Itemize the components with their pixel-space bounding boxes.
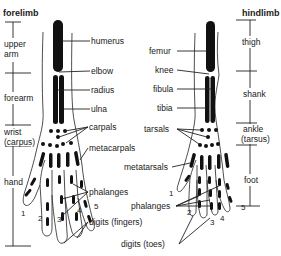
label-metacarpals: metacarpals — [89, 143, 135, 153]
toe-number-5: 5 — [241, 203, 246, 212]
finger-number-4: 4 — [77, 206, 82, 215]
tibia-bone — [205, 76, 210, 123]
label-elbow: elbow — [91, 66, 114, 76]
label-femur: femur — [149, 46, 171, 56]
hindlimb-group: hindlimb thigh shank ankle (tarsus) foot — [121, 8, 280, 249]
label-toe-phalanges: phalanges — [131, 201, 170, 211]
finger-number-2: 2 — [38, 214, 43, 223]
label-humerus: humerus — [91, 36, 124, 46]
label-digits-fingers: digits (fingers) — [89, 217, 143, 227]
region-ankle: ankle — [243, 124, 264, 134]
finger-number-1: 1 — [21, 209, 26, 218]
radius-bone — [53, 75, 58, 124]
label-digits-toes: digits (toes) — [121, 239, 165, 249]
toe-number-4: 4 — [220, 214, 225, 223]
region-upper-arm-2: arm — [4, 49, 19, 59]
toe-number-2: 2 — [187, 208, 192, 217]
humerus-bone — [53, 20, 63, 72]
tarsal-bones — [198, 128, 220, 148]
ulna-bone — [59, 75, 64, 124]
carpal-bones — [41, 129, 73, 148]
region-hand: hand — [4, 177, 23, 187]
label-tibia: tibia — [157, 103, 173, 113]
toe-number-3: 3 — [210, 218, 215, 227]
metacarpal-bones — [38, 151, 80, 168]
hindlimb-skin-outline — [177, 32, 230, 218]
region-wrist: wrist — [3, 127, 22, 137]
label-knee: knee — [155, 65, 174, 75]
label-phalanges: phalanges — [89, 187, 128, 197]
finger-number-5: 5 — [94, 202, 99, 211]
forelimb-title: forelimb — [3, 8, 39, 18]
hindlimb-title: hindlimb — [242, 8, 280, 18]
region-thigh: thigh — [242, 37, 261, 47]
femur-bone — [206, 21, 215, 72]
label-tarsals: tarsals — [144, 124, 169, 134]
region-upper-arm: upper — [4, 39, 26, 49]
label-radius: radius — [91, 85, 114, 95]
label-ulna: ulna — [91, 104, 107, 114]
label-metatarsals: metatarsals — [124, 162, 168, 172]
limb-comparison-diagram: forelimb upper arm forearm wrist (carpus… — [0, 0, 281, 256]
region-tarsus: (tarsus) — [241, 134, 270, 144]
finger-number-3: 3 — [57, 215, 62, 224]
toe-number-1: 1 — [169, 189, 174, 198]
region-shank: shank — [243, 89, 266, 99]
label-fibula: fibula — [153, 84, 174, 94]
region-carpus: (carpus) — [4, 137, 35, 147]
fibula-bone — [211, 76, 216, 123]
region-forearm: forearm — [4, 93, 33, 103]
forelimb-group: forelimb upper arm forearm wrist (carpus… — [3, 8, 143, 246]
region-foot: foot — [244, 175, 259, 185]
label-carpals: carpals — [89, 122, 116, 132]
